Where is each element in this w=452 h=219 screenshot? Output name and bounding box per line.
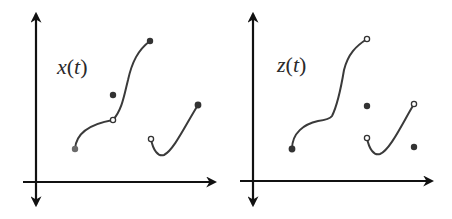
open-point-right-top — [364, 36, 369, 41]
open-point-left-seg2-start — [148, 136, 153, 141]
closed-point-left-start — [72, 146, 78, 152]
closed-point-left-top — [147, 38, 153, 44]
open-point-right-seg2-start — [364, 135, 369, 140]
closed-point-right-start — [289, 146, 296, 153]
isolated-point-right-upper — [364, 103, 370, 109]
curve-left-segment-2 — [151, 105, 198, 155]
piecewise-functions-figure: x(t) z(t) — [0, 0, 452, 219]
closed-point-left-seg2-end — [195, 102, 202, 109]
isolated-point-right-lower — [411, 144, 417, 150]
panel-x-of-t: x(t) — [23, 14, 215, 205]
curve-right-segment-2 — [367, 104, 414, 154]
open-point-left-mid — [110, 117, 115, 122]
isolated-point-left — [110, 92, 116, 98]
open-point-right-seg2-end — [411, 101, 416, 106]
function-label-z: z(t) — [276, 52, 306, 77]
function-label-x: x(t) — [56, 54, 88, 79]
panel-z-of-t: z(t) — [240, 14, 432, 205]
